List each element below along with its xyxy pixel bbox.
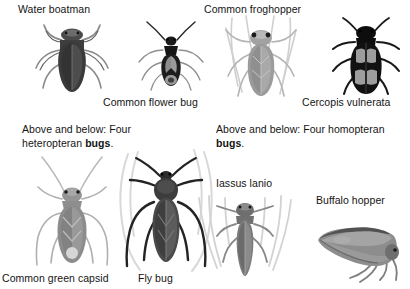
fly-bug-body [153, 171, 180, 262]
label-iassus-lanio: Iassus lanio [216, 177, 272, 190]
water-boatman-body [58, 29, 86, 93]
label-fly-bug: Fly bug [138, 272, 173, 285]
iassus-lanio-illustration [195, 196, 295, 289]
label-cercopis-vulnerata: Cercopis vulnerata [302, 96, 390, 109]
caption-homopteran-line1: Above and below: Four homopteran [216, 123, 406, 137]
caption-heteropteran-line2-prefix: heteropteran [22, 137, 85, 149]
label-common-flower-bug: Common flower bug [103, 96, 198, 109]
caption-heteropteran-line2-suffix: . [110, 137, 113, 149]
caption-heteropteran-bold-bugs: bugs [85, 137, 110, 149]
cercopis-body [350, 26, 381, 94]
capsid-antennae [42, 157, 102, 191]
caption-homopteran-bold-bugs: bugs [216, 137, 241, 149]
caption-homopteran: Above and below: Four homopteran bugs. [216, 123, 406, 150]
label-buffalo-hopper: Buffalo hopper [316, 194, 385, 207]
buffalo-hopper-illustration [312, 210, 408, 288]
caption-heteropteran: Above and below: Four heteropteran bugs. [22, 123, 202, 150]
common-green-capsid-illustration [22, 155, 122, 273]
cercopis-vulnerata-illustration [326, 16, 406, 98]
froghopper-body [248, 30, 274, 96]
common-flower-bug-body [161, 37, 180, 87]
water-boatman-illustration [26, 18, 118, 96]
label-common-froghopper: Common froghopper [204, 3, 301, 16]
common-flower-bug-illustration [131, 20, 211, 94]
label-common-green-capsid: Common green capsid [2, 272, 109, 285]
iassus-body [236, 203, 254, 276]
buffalo-hopper-body [318, 227, 399, 266]
caption-homopteran-line2: bugs. [216, 137, 406, 151]
caption-homopteran-line2-suffix: . [241, 137, 244, 149]
caption-heteropteran-line1: Above and below: Four [22, 123, 202, 137]
caption-heteropteran-line2: heteropteran bugs. [22, 137, 202, 151]
common-froghopper-illustration [216, 16, 306, 104]
label-water-boatman: Water boatman [18, 3, 90, 16]
insect-figure-plate: Water boatman [0, 0, 410, 289]
